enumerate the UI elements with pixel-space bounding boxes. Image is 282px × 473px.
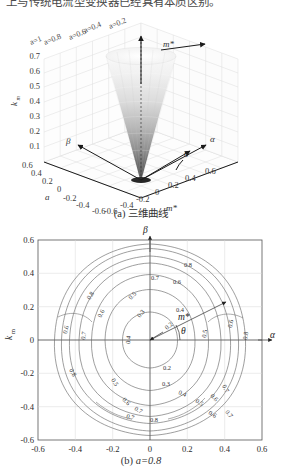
svg-text:-0.2: -0.2 — [20, 368, 34, 378]
svg-text:0.2: 0.2 — [23, 302, 34, 312]
svg-text:0.8: 0.8 — [241, 331, 249, 340]
contour-plot-svg: β α 0.8 — [0, 222, 282, 454]
svg-text:0.8: 0.8 — [184, 261, 192, 268]
a-axis-label: a — [45, 192, 50, 202]
svg-text:0.2: 0.2 — [29, 126, 40, 136]
svg-text:-0.2: -0.2 — [136, 194, 149, 204]
svg-text:0.5: 0.5 — [29, 81, 40, 91]
beta-axis-label: β — [142, 225, 148, 235]
svg-text:0.4: 0.4 — [219, 444, 230, 454]
svg-text:a=0.8: a=0.8 — [42, 32, 62, 47]
svg-text:-0.2: -0.2 — [106, 444, 120, 454]
svg-text:0.3: 0.3 — [29, 111, 40, 121]
z-tick-labels: 0.7 0.6 0.5 0.4 0.3 0.2 0.1 — [29, 51, 40, 151]
panel-b-contour-plot: β α 0.8 — [0, 222, 282, 454]
panel-b-caption: (b) a=0.8 — [0, 455, 282, 466]
svg-text:0.6: 0.6 — [23, 235, 34, 245]
svg-text:m: m — [9, 329, 16, 334]
y-axis-label: k m — [4, 329, 16, 340]
clipped-body-text: 上与传统电流型变换器已经具有本质区别。 — [6, 0, 278, 10]
panel-a-caption: (a) 三维曲线 — [0, 205, 282, 220]
svg-text:0.2: 0.2 — [42, 176, 53, 186]
svg-text:0.8: 0.8 — [68, 367, 78, 377]
svg-text:0.7: 0.7 — [151, 274, 160, 281]
svg-text:0.8: 0.8 — [85, 290, 95, 300]
svg-text:0.6: 0.6 — [96, 308, 106, 318]
svg-text:0.5: 0.5 — [200, 329, 208, 338]
svg-text:0.2: 0.2 — [168, 180, 179, 190]
svg-text:0.6: 0.6 — [173, 278, 181, 285]
svg-text:0.7: 0.7 — [79, 330, 87, 340]
alpha-arrow-label-3d: α — [210, 134, 215, 144]
svg-text:k: k — [9, 101, 19, 106]
svg-text:a=0.4: a=0.4 — [82, 20, 102, 35]
svg-text:0.4: 0.4 — [23, 268, 34, 278]
theta-label-2d: θ — [181, 326, 186, 336]
svg-text:-0.6: -0.6 — [31, 444, 45, 454]
svg-text:-0.2: -0.2 — [63, 193, 76, 203]
svg-text:0.5: 0.5 — [110, 377, 120, 387]
panel-b-caption-value: a=0.8 — [136, 455, 161, 466]
z-axis-label: k m — [9, 96, 21, 107]
svg-text:0.3: 0.3 — [162, 380, 170, 387]
panel-b-caption-prefix: (b) — [121, 455, 136, 466]
alpha-axis-label: α — [270, 330, 276, 340]
svg-text:-0.6: -0.6 — [20, 435, 34, 445]
svg-text:0.4: 0.4 — [124, 335, 132, 344]
svg-text:0.6: 0.6 — [121, 396, 132, 407]
panel-a-3d-surface: m* β α θ 0.7 0.6 0.5 0.4 0.3 0.2 0.1 k m — [0, 14, 282, 214]
svg-text:0.1: 0.1 — [29, 141, 40, 151]
svg-text:-0.4: -0.4 — [68, 444, 82, 454]
svg-text:-0.4: -0.4 — [20, 402, 34, 412]
svg-text:a=1: a=1 — [28, 34, 43, 47]
svg-text:0.4: 0.4 — [185, 173, 196, 183]
svg-text:0.4: 0.4 — [31, 168, 42, 178]
y-tick-labels: 0.6 0.4 0.2 0 -0.2 -0.4 -0.6 — [20, 235, 34, 445]
svg-text:0.2: 0.2 — [182, 444, 193, 454]
svg-text:m: m — [15, 96, 21, 101]
surface-plot-svg: m* β α θ 0.7 0.6 0.5 0.4 0.3 0.2 0.1 k m — [0, 14, 282, 214]
svg-text:0.6: 0.6 — [205, 166, 216, 176]
beta-arrow-label-3d: β — [65, 136, 71, 146]
svg-text:0.6: 0.6 — [61, 325, 70, 334]
svg-text:a=0.2: a=0.2 — [107, 16, 127, 31]
svg-text:0.6: 0.6 — [257, 444, 268, 454]
svg-text:0.6: 0.6 — [226, 319, 234, 328]
svg-text:0.6: 0.6 — [29, 66, 40, 76]
svg-text:0.7: 0.7 — [29, 51, 40, 61]
svg-text:0.8: 0.8 — [150, 416, 158, 423]
m-star-arrow-label-3d: m* — [163, 39, 174, 49]
svg-text:k: k — [4, 335, 14, 340]
svg-text:0: 0 — [57, 184, 61, 194]
svg-text:0.4: 0.4 — [29, 96, 40, 106]
svg-text:0.5: 0.5 — [194, 397, 204, 407]
m-star-radial-label: m* — [178, 312, 190, 322]
x-tick-labels: -0.6 -0.4 -0.2 0 0.2 0.4 0.6 — [31, 444, 268, 454]
svg-text:0: 0 — [30, 335, 34, 345]
svg-text:0: 0 — [155, 187, 159, 197]
origin-arrow — [150, 332, 163, 340]
svg-text:0.3: 0.3 — [135, 308, 145, 319]
svg-text:0: 0 — [148, 444, 152, 454]
contour-lobe-detail — [58, 313, 243, 419]
svg-text:0.7: 0.7 — [224, 408, 235, 419]
svg-text:0.2: 0.2 — [163, 364, 171, 371]
